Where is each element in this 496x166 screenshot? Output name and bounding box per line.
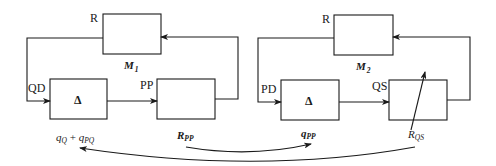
m2-name-label: M2 xyxy=(355,60,371,75)
m2-port-label: R xyxy=(322,12,330,26)
delta-symbol-left: Δ xyxy=(74,93,82,107)
q-q-plus-q-pq-label: qQ + qPQ xyxy=(56,131,95,145)
m1-port-label: R xyxy=(90,11,98,25)
pd-label: PD xyxy=(261,82,277,96)
qs-label: QS xyxy=(372,79,387,93)
left-loop: R M1 Δ QD PP qQ + qPQ RPP xyxy=(27,11,238,145)
block-diagram: R M1 Δ QD PP qQ + qPQ RPP R M2 Δ PD QS xyxy=(0,0,496,166)
pp-label: PP xyxy=(140,78,154,92)
q-pp-label: qPP xyxy=(301,127,316,141)
cross-arrows xyxy=(80,144,415,161)
m1-block xyxy=(103,14,161,54)
r-qs-label: RQS xyxy=(407,128,424,142)
m2-block xyxy=(334,15,393,55)
rpp-to-qpp-arrow xyxy=(186,144,311,152)
m1-name-label: M1 xyxy=(123,59,139,74)
delta-symbol-right: Δ xyxy=(305,94,313,108)
rqs-to-qq-arrow xyxy=(80,147,415,161)
qd-label: QD xyxy=(28,81,46,95)
pp-block xyxy=(157,79,215,119)
r-pp-label: RPP xyxy=(176,129,194,143)
right-loop: R M2 Δ PD QS qPP RQS xyxy=(258,12,470,142)
